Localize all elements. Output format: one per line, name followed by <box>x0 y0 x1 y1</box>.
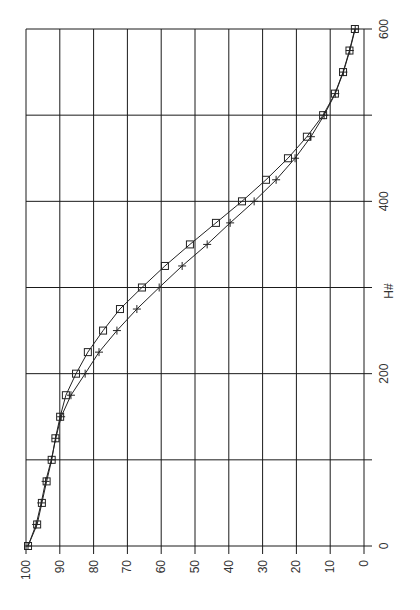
h-tick-label: 400 <box>377 191 391 211</box>
h-axis-label: H# <box>382 283 396 299</box>
value-tick-label: 50 <box>188 560 202 574</box>
h-tick-label: 600 <box>377 19 391 39</box>
value-tick-label: 40 <box>222 560 236 574</box>
value-tick-label: 20 <box>289 560 303 574</box>
chart-grid <box>26 29 372 554</box>
value-tick-label: 70 <box>120 560 134 574</box>
value-tick-label: 100 <box>19 560 33 580</box>
h-tick-label: 200 <box>377 363 391 383</box>
plus-marker <box>81 370 89 378</box>
value-tick-label: 30 <box>256 560 270 574</box>
value-axis-tick-labels: 1009080706050403020100 <box>19 560 371 580</box>
plus-marker <box>67 391 75 399</box>
value-tick-label: 60 <box>154 560 168 574</box>
plus-marker <box>307 133 315 141</box>
rotated-line-chart: 1009080706050403020100 0200400600 H# <box>0 0 420 610</box>
value-tick-label: 90 <box>53 560 67 574</box>
h-tick-label: 0 <box>377 542 391 549</box>
plus-marker <box>24 542 32 550</box>
value-tick-label: 0 <box>357 560 371 567</box>
value-tick-label: 80 <box>87 560 101 574</box>
value-tick-label: 10 <box>323 560 337 574</box>
